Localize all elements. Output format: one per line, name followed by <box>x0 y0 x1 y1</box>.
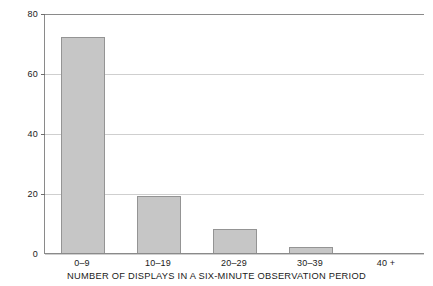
x-tick-label: 0–9 <box>74 258 90 268</box>
bar <box>61 37 105 253</box>
y-tick-label: 20 <box>28 189 38 199</box>
y-tick-label: 80 <box>28 9 38 19</box>
y-tick-label: 0 <box>33 249 38 259</box>
bars-layer <box>45 14 424 253</box>
y-tick-label: 40 <box>28 129 38 139</box>
bar-chart-figure: 020406080 0–910–1920–2930–3940 + NUMBER … <box>0 0 433 286</box>
x-tick-label: 40 + <box>377 258 396 268</box>
x-tick-label: 10–19 <box>145 258 171 268</box>
bar <box>289 247 333 253</box>
y-tick-label: 60 <box>28 69 38 79</box>
bar <box>137 196 181 253</box>
plot-area: 020406080 <box>44 14 424 254</box>
x-tick-label: 20–29 <box>221 258 247 268</box>
x-tick-label: 30–39 <box>297 258 323 268</box>
gridline-0 <box>45 254 424 255</box>
bar <box>213 229 257 253</box>
x-axis-title: NUMBER OF DISPLAYS IN A SIX-MINUTE OBSER… <box>0 271 433 281</box>
